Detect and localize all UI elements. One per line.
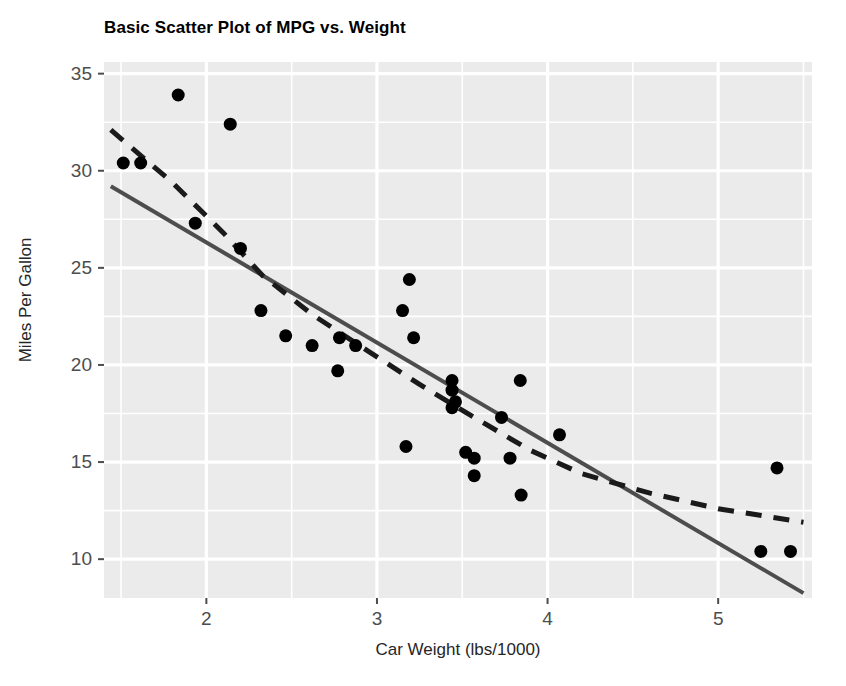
y-tick-label: 35 [48,63,92,85]
y-axis-title: Miles Per Gallon [16,238,36,363]
x-tick-label: 2 [201,608,212,630]
data-point [306,339,319,352]
data-point [349,339,362,352]
x-axis-title: Car Weight (lbs/1000) [375,640,540,660]
data-point [468,469,481,482]
data-point [333,331,346,344]
data-point [553,428,566,441]
data-point [396,304,409,317]
data-point [399,440,412,453]
x-tick-label: 5 [713,608,724,630]
data-point [446,384,459,397]
data-point [495,411,508,424]
data-point [189,217,202,230]
data-point [407,331,420,344]
y-tick-label: 30 [48,160,92,182]
panel-background [104,62,812,598]
chart-root: Basic Scatter Plot of MPG vs. Weight 353… [0,0,846,686]
data-point [172,89,185,102]
data-point [254,304,267,317]
data-point [504,452,517,465]
scatter-plot-canvas [0,0,846,686]
data-point [514,374,527,387]
data-point [234,242,247,255]
y-tick-label: 25 [48,257,92,279]
data-point [117,156,130,169]
data-point [403,273,416,286]
y-tick-label: 15 [48,451,92,473]
data-point [468,452,481,465]
x-tick-label: 4 [542,608,553,630]
data-point [771,461,784,474]
panel-background-group [104,62,812,598]
y-tick-label: 10 [48,548,92,570]
data-point [784,545,797,558]
data-point [515,489,528,502]
data-point [134,156,147,169]
data-point [331,364,344,377]
data-point [279,329,292,342]
data-point [754,545,767,558]
data-point [449,395,462,408]
x-tick-label: 3 [372,608,383,630]
y-tick-label: 20 [48,354,92,376]
data-point [224,118,237,131]
